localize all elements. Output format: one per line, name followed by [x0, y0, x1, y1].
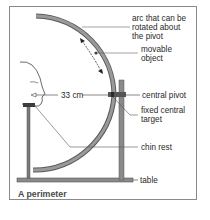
head-profile	[20, 62, 45, 106]
label-arc-2: rotated about	[132, 23, 181, 32]
chin-rest-post	[27, 105, 30, 178]
label-table: table	[140, 176, 158, 185]
arrow-head-up	[80, 38, 85, 43]
label-movable-1: movable	[141, 45, 172, 54]
label-arc-3: the pivot	[132, 32, 164, 41]
label-distance: 33 cm	[61, 91, 83, 100]
arrow-head-down	[98, 69, 103, 74]
fixed-target-leader	[113, 97, 138, 115]
label-central-pivot: central pivot	[142, 91, 187, 100]
label-arc-1: arc that can be	[132, 14, 187, 23]
central-pivot	[108, 92, 126, 97]
table	[17, 178, 133, 182]
label-fixed-2: target	[141, 115, 163, 124]
eyebrow	[30, 82, 38, 83]
label-fixed-1: fixed central	[141, 106, 185, 115]
diagram-title: A perimeter	[18, 189, 67, 199]
label-movable-2: object	[141, 54, 164, 63]
fixed-central-target	[111, 92, 114, 97]
label-chin-rest: chin rest	[141, 143, 173, 152]
perimeter-diagram: arc that can be rotated about the pivot …	[0, 0, 210, 220]
eye-icon	[31, 93, 36, 97]
